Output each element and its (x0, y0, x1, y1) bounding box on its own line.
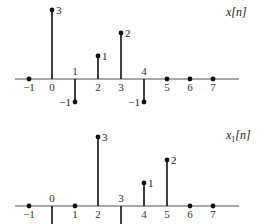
tick-label: 7 (210, 81, 216, 93)
chart-title: x[n] (225, 5, 247, 19)
sample-dot (73, 100, 78, 105)
tick-label: 0 (49, 81, 55, 93)
value-label: 1 (102, 50, 108, 62)
tick-label: 2 (95, 208, 101, 220)
sample-dot (142, 181, 147, 186)
sample-dot (119, 31, 124, 36)
sample-dot (50, 8, 55, 13)
chart-title: x1[n] (225, 128, 251, 144)
tick-label: 5 (164, 208, 170, 220)
value-label: 2 (125, 27, 131, 39)
value-label: 2 (171, 154, 177, 166)
stem-plots: x[n]−130−111223−14567 x1[n]−101323142567 (0, 0, 280, 224)
tick-label: 1 (72, 65, 78, 77)
sample-dot (142, 100, 147, 105)
plot-x1-n: x1[n]−101323142567 (15, 128, 251, 224)
value-label: 3 (56, 4, 62, 16)
plot-x-n: x[n]−130−111223−14567 (15, 4, 247, 108)
sample-dot (96, 54, 101, 59)
tick-label: 6 (187, 81, 193, 93)
tick-label: 1 (72, 208, 78, 220)
value-label: 3 (102, 131, 108, 143)
tick-label: −1 (23, 208, 35, 220)
value-label: −1 (59, 96, 71, 108)
sample-dot (96, 135, 101, 140)
tick-label: 2 (95, 81, 101, 93)
sample-dot (165, 158, 170, 163)
value-label: 1 (148, 177, 154, 189)
tick-label: 3 (118, 81, 124, 93)
tick-label: 7 (210, 208, 216, 220)
value-label: −1 (128, 96, 140, 108)
tick-label: 0 (49, 192, 55, 204)
tick-label: 5 (164, 81, 170, 93)
tick-label: −1 (23, 81, 35, 93)
tick-label: 6 (187, 208, 193, 220)
tick-label: 4 (141, 208, 147, 220)
tick-label: 3 (118, 192, 124, 204)
tick-label: 4 (141, 65, 147, 77)
